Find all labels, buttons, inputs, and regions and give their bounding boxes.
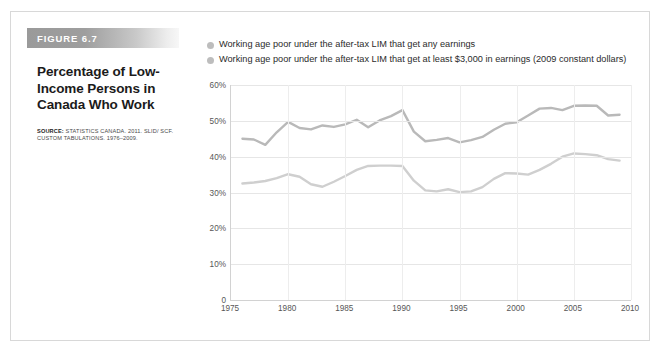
gridline-vertical (402, 85, 403, 300)
plot-wrapper: 010%20%30%40%50%60% 19751980198519901995… (196, 85, 636, 331)
y-tick-label: 50% (200, 116, 226, 125)
y-tick-label: 10% (200, 260, 226, 269)
gridline-horizontal (231, 121, 631, 122)
legend-label-min-3000: Working age poor under the after-tax LIM… (219, 54, 626, 65)
series-line (242, 105, 619, 144)
figure-title-line-2: Income Persons in (37, 81, 179, 98)
gridline-horizontal (231, 85, 631, 86)
x-tick-label: 2000 (507, 304, 525, 313)
x-tick-label: 1990 (392, 304, 410, 313)
x-tick-label: 1995 (449, 304, 467, 313)
gridline-vertical (288, 85, 289, 300)
figure-source-note: SOURCE: STATISTICS CANADA. 2011. SLID/ S… (27, 128, 179, 143)
y-tick-label: 30% (200, 188, 226, 197)
x-tick-label: 1975 (221, 304, 239, 313)
gridline-vertical (345, 85, 346, 300)
figure-number-label: FIGURE 6.7 (37, 33, 98, 44)
gridline-horizontal (231, 193, 631, 194)
series-line (242, 153, 619, 192)
source-label: SOURCE: (37, 128, 64, 134)
legend-dot-icon (207, 42, 214, 49)
figure-container: FIGURE 6.7 Percentage of Low- Income Per… (10, 11, 650, 341)
figure-caption-column: FIGURE 6.7 Percentage of Low- Income Per… (27, 28, 179, 142)
gridline-horizontal (231, 228, 631, 229)
chart-legend: Working age poor under the after-tax LIM… (207, 39, 637, 69)
legend-label-any-earnings: Working age poor under the after-tax LIM… (219, 39, 475, 50)
gridline-vertical (574, 85, 575, 300)
gridline-vertical (631, 85, 632, 300)
x-tick-label: 1985 (335, 304, 353, 313)
y-tick-label: 60% (200, 81, 226, 90)
legend-item-any-earnings: Working age poor under the after-tax LIM… (207, 39, 637, 50)
y-tick-label: 20% (200, 224, 226, 233)
chart-column: Working age poor under the after-tax LIM… (196, 26, 636, 331)
plot-area (230, 85, 631, 301)
x-tick-label: 2010 (621, 304, 639, 313)
legend-item-min-3000: Working age poor under the after-tax LIM… (207, 54, 637, 65)
gridline-horizontal (231, 264, 631, 265)
gridline-vertical (460, 85, 461, 300)
figure-title-line-3: Canada Who Work (37, 97, 179, 114)
y-axis: 010%20%30%40%50%60% (196, 85, 226, 300)
figure-number-banner: FIGURE 6.7 (27, 28, 179, 48)
x-tick-label: 2005 (564, 304, 582, 313)
y-tick-label: 40% (200, 152, 226, 161)
gridline-horizontal (231, 157, 631, 158)
x-tick-label: 1980 (278, 304, 296, 313)
figure-title: Percentage of Low- Income Persons in Can… (27, 64, 179, 114)
legend-dot-icon (207, 57, 214, 64)
gridline-vertical (517, 85, 518, 300)
figure-title-line-1: Percentage of Low- (37, 64, 179, 81)
x-axis: 19751980198519901995200020052010 (230, 304, 630, 318)
